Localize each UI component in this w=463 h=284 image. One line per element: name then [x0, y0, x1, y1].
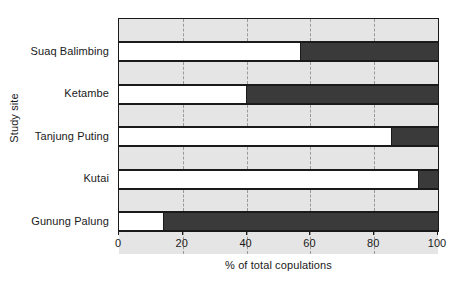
bar-suaq-balimbing [119, 42, 438, 61]
gridline [247, 105, 248, 126]
bar-ketambe [119, 85, 438, 104]
background-band [119, 189, 438, 212]
background-band [119, 146, 438, 169]
x-tick-mark [373, 231, 374, 235]
x-tick-label-60: 60 [289, 237, 329, 249]
gridline [310, 147, 311, 168]
plot-area [118, 18, 439, 232]
gridline [183, 19, 184, 41]
gridline [310, 19, 311, 41]
gridline [183, 147, 184, 168]
bar-gunung-palung [119, 212, 438, 231]
bar-kutai [119, 170, 438, 189]
gridline [183, 62, 184, 83]
gridline [310, 62, 311, 83]
x-tick-label-0: 0 [98, 237, 138, 249]
gridline [310, 190, 311, 211]
y-axis-tick-labels: Suaq BalimbingKetambeTanjung PutingKutai… [0, 18, 114, 230]
gridline [247, 19, 248, 41]
x-tick-mark [309, 231, 310, 235]
plot-inner [119, 19, 438, 231]
x-tick-label-20: 20 [162, 237, 202, 249]
y-tick-label-suaq-balimbing: Suaq Balimbing [31, 45, 109, 57]
bar-segment-white [119, 171, 419, 188]
gridline [374, 190, 375, 211]
bar-segment-white [119, 86, 247, 103]
bar-chart-figure: Study site Suaq BalimbingKetambeTanjung … [0, 0, 463, 284]
x-tick-mark [437, 231, 438, 235]
background-band [119, 61, 438, 84]
gridline [183, 105, 184, 126]
x-axis-title: % of total copulations [118, 259, 439, 271]
gridline [374, 147, 375, 168]
gridline [183, 190, 184, 211]
gridline [247, 62, 248, 83]
gridline [374, 105, 375, 126]
x-tick-label-80: 80 [353, 237, 393, 249]
x-tick-label-100: 100 [417, 237, 457, 249]
y-tick-label-tanjung-puting: Tanjung Puting [35, 130, 109, 142]
x-tick-label-40: 40 [226, 237, 266, 249]
y-tick-label-ketambe: Ketambe [64, 87, 109, 99]
background-band [119, 19, 438, 42]
bar-tanjung-puting [119, 127, 438, 146]
x-tick-mark [246, 231, 247, 235]
gridline [247, 190, 248, 211]
gridline [374, 62, 375, 83]
x-tick-mark [118, 231, 119, 235]
y-tick-label-kutai: Kutai [83, 172, 109, 184]
y-tick-label-gunung-palung: Gunung Palung [31, 215, 109, 227]
gridline [374, 19, 375, 41]
bar-segment-white [119, 128, 392, 145]
x-axis-line [118, 231, 439, 232]
bar-segment-white [119, 43, 301, 60]
background-band [119, 104, 438, 127]
gridline [310, 105, 311, 126]
gridline [247, 147, 248, 168]
bar-segment-white [119, 213, 164, 230]
x-tick-mark [182, 231, 183, 235]
